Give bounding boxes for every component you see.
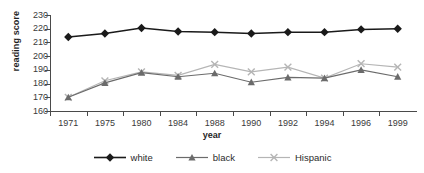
data-point-marker (358, 66, 365, 73)
x-tick-mark (343, 112, 344, 116)
y-tick-mark (45, 84, 50, 85)
x-tick-label: 1988 (205, 118, 225, 128)
y-axis-tick-labels: 230220210200190180170160 (26, 10, 48, 116)
x-tick-mark (196, 112, 197, 116)
x-tick-label: 1994 (314, 118, 334, 128)
y-tick-mark (45, 29, 50, 30)
x-tick-mark (123, 112, 124, 116)
y-tick-mark (45, 42, 50, 43)
x-tick-mark (233, 112, 234, 116)
series-line (68, 70, 397, 97)
legend-item-white[interactable]: white (93, 152, 153, 163)
x-tick-label: 1984 (168, 118, 188, 128)
series-line (68, 28, 397, 37)
series-lines-and-markers (50, 15, 416, 111)
x-tick-label: 1996 (351, 118, 371, 128)
legend-label: Hispanic (295, 152, 331, 163)
y-axis-title: reading score (11, 1, 21, 81)
diamond-marker (93, 152, 127, 163)
legend-item-hispanic[interactable]: Hispanic (257, 152, 331, 163)
data-point-marker (394, 25, 402, 33)
x-tick-mark (270, 112, 271, 116)
data-point-marker (211, 28, 219, 36)
x-tick-mark (306, 112, 307, 116)
data-point-marker (64, 33, 72, 41)
data-point-marker (357, 25, 365, 33)
y-tick-mark (45, 97, 50, 98)
x-axis-title: year (0, 130, 424, 140)
x-tick-label: 1975 (95, 118, 115, 128)
x-tick-mark (87, 112, 88, 116)
triangle-marker (175, 152, 209, 163)
y-tick-mark (45, 56, 50, 57)
chart-legend: whiteblackHispanic (0, 148, 424, 166)
x-tick-label: 1992 (278, 118, 298, 128)
x-tick-mark (379, 112, 380, 116)
x-tick-mark (160, 112, 161, 116)
legend-item-black[interactable]: black (175, 152, 235, 163)
y-tick-mark (45, 15, 50, 16)
x-tick-mark (50, 112, 51, 116)
x-tick-label: 1980 (131, 118, 151, 128)
series-white (64, 24, 402, 41)
x-tick-label: 1999 (388, 118, 408, 128)
data-point-marker (101, 29, 109, 37)
x-axis-tick-labels: 1971197519801984198819901992199419961999 (0, 118, 424, 130)
data-point-marker (174, 27, 182, 35)
data-point-marker (284, 28, 292, 36)
series-black (65, 66, 402, 100)
data-point-marker (137, 24, 145, 32)
x-tick-label: 1990 (241, 118, 261, 128)
data-point-marker (320, 28, 328, 36)
data-point-marker (247, 29, 255, 37)
series-line (68, 64, 397, 98)
y-tick-mark (45, 70, 50, 71)
legend-label: white (131, 152, 153, 163)
x-marker (257, 152, 291, 163)
reading-score-line-chart: reading score 230220210200190180170160 1… (0, 0, 424, 173)
plot-area (50, 15, 416, 111)
x-tick-label: 1971 (58, 118, 78, 128)
legend-label: black (213, 152, 235, 163)
